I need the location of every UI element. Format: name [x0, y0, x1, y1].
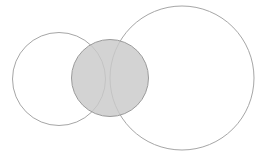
center-circle: [72, 40, 149, 117]
figure-root: [0, 0, 268, 155]
venn-diagram-svg: [0, 0, 268, 155]
